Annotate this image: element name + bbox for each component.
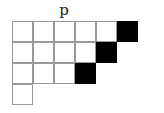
grid-cell [12,84,33,105]
grid-cell [12,42,33,63]
grid-cell [75,21,96,42]
grid-cell [54,21,75,42]
grid-cell [75,42,96,63]
grid-cell [54,63,75,84]
grid-cell [33,42,54,63]
diagram-label: p [58,2,70,18]
grid-cell [54,42,75,63]
grid-cell [33,21,54,42]
grid-cell [96,21,117,42]
shaded-cell [117,21,138,42]
shaded-cell [75,63,96,84]
grid-cell [12,21,33,42]
grid-cell [12,63,33,84]
shaded-cell [96,42,117,63]
grid-cell [33,63,54,84]
